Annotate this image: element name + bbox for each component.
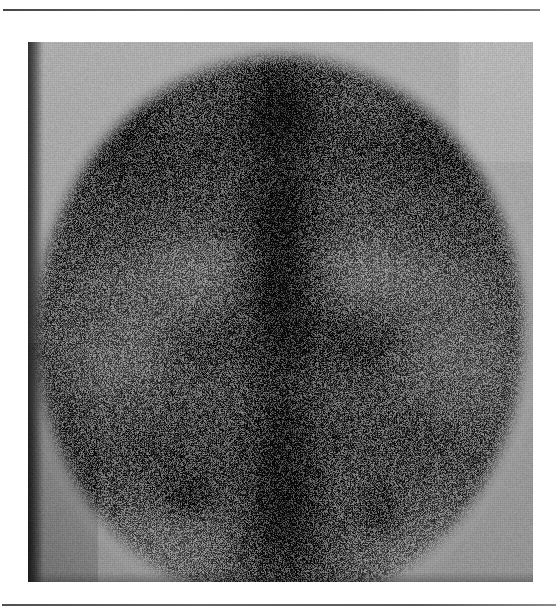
- document-page: [0, 0, 559, 614]
- bottom-separator-rule: [2, 604, 556, 606]
- scintigram-figure-plate: [28, 42, 533, 582]
- figure-caption: [28, 586, 533, 598]
- bone-scintigram-image: [28, 42, 533, 582]
- top-separator-rule: [3, 9, 540, 11]
